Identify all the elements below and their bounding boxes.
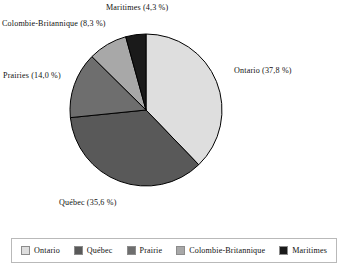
pie-label-ontario: Ontario (37,8 %)	[234, 67, 292, 75]
pie-chart-svg	[0, 0, 354, 228]
legend-swatch-icon	[21, 246, 30, 255]
legend-item-label: Québec	[87, 246, 113, 255]
legend-item-colombie-britannique[interactable]: Colombie-Britannique	[176, 246, 265, 255]
legend-item-label: Prairie	[140, 246, 163, 255]
pie-label-prairies: Prairies (14,0 %)	[3, 72, 61, 80]
chart-legend: OntarioQuébecPrairieColombie-Britannique…	[11, 238, 337, 263]
legend-swatch-icon	[74, 246, 83, 255]
pie-slices-group	[70, 34, 222, 186]
legend-swatch-icon	[176, 246, 185, 255]
legend-item-prairie[interactable]: Prairie	[127, 246, 163, 255]
legend-item-label: Ontario	[34, 246, 60, 255]
legend-swatch-icon	[127, 246, 136, 255]
pie-label-quebec: Québec (35,6 %)	[59, 199, 117, 207]
legend-item-ontario[interactable]: Ontario	[21, 246, 60, 255]
pie-label-maritimes: Maritimes (4,3 %)	[106, 4, 168, 12]
pie-label-colombie-britannique: Colombie-Britannique (8,3 %)	[2, 20, 106, 28]
legend-item-label: Maritimes	[292, 246, 327, 255]
legend-item-qu-bec[interactable]: Québec	[74, 246, 113, 255]
legend-item-maritimes[interactable]: Maritimes	[279, 246, 327, 255]
legend-swatch-icon	[279, 246, 288, 255]
legend-item-label: Colombie-Britannique	[189, 246, 265, 255]
pie-chart-area: Maritimes (4,3 %) Colombie-Britannique (…	[0, 0, 354, 228]
